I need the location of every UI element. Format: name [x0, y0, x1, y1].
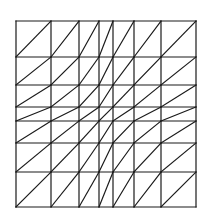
cell-diagonal	[134, 85, 161, 107]
cell-diagonal	[113, 85, 134, 107]
triangulated-mesh-diagram	[0, 0, 205, 216]
cell-diagonal	[99, 143, 113, 172]
cell-diagonal	[99, 57, 113, 85]
cell-diagonal	[16, 85, 51, 107]
cell-diagonal	[99, 107, 113, 121]
cell-diagonal	[79, 85, 99, 107]
cell-diagonal	[161, 143, 196, 172]
cell-diagonal	[16, 21, 51, 57]
cell-diagonal	[99, 21, 113, 57]
cell-diagonal	[113, 143, 134, 172]
cell-diagonal	[79, 107, 99, 121]
cell-diagonal	[79, 143, 99, 172]
cell-diagonal	[113, 57, 134, 85]
cell-diagonal	[161, 172, 196, 207]
cell-diagonal	[113, 107, 134, 121]
cell-diagonal	[51, 57, 79, 85]
cell-diagonal	[161, 57, 196, 85]
cell-diagonal	[134, 143, 161, 172]
cell-diagonal	[16, 121, 51, 143]
cell-diagonal	[79, 121, 99, 143]
cell-diagonals	[16, 21, 196, 207]
cell-diagonal	[99, 121, 113, 143]
cell-diagonal	[16, 143, 51, 172]
cell-diagonal	[113, 21, 134, 57]
cell-diagonal	[51, 21, 79, 57]
cell-diagonal	[79, 57, 99, 85]
cell-diagonal	[134, 57, 161, 85]
cell-diagonal	[113, 121, 134, 143]
cell-diagonal	[161, 107, 196, 121]
cell-diagonal	[51, 143, 79, 172]
cell-diagonal	[113, 172, 134, 207]
cell-diagonal	[79, 21, 99, 57]
cell-diagonal	[161, 121, 196, 143]
cell-diagonal	[134, 107, 161, 121]
cell-diagonal	[134, 172, 161, 207]
cell-diagonal	[51, 85, 79, 107]
cell-diagonal	[16, 107, 51, 121]
cell-diagonal	[51, 107, 79, 121]
cell-diagonal	[134, 21, 161, 57]
cell-diagonal	[16, 57, 51, 85]
cell-diagonal	[134, 121, 161, 143]
cell-diagonal	[51, 121, 79, 143]
cell-diagonal	[99, 85, 113, 107]
cell-diagonal	[79, 172, 99, 207]
cell-diagonal	[161, 21, 196, 57]
cell-diagonal	[99, 172, 113, 207]
cell-diagonal	[161, 85, 196, 107]
cell-diagonal	[51, 172, 79, 207]
cell-diagonal	[16, 172, 51, 207]
